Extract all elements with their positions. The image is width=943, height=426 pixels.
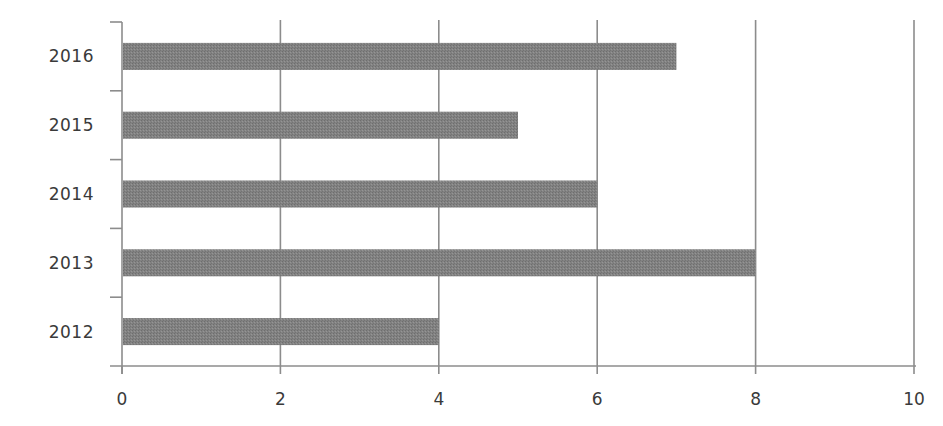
- y-category-label: 2015: [49, 115, 94, 135]
- x-tick-label: 2: [275, 389, 286, 409]
- bar-2015: [123, 112, 518, 139]
- bar-2012: [123, 318, 439, 345]
- x-tick-label: 4: [433, 389, 444, 409]
- y-category-label: 2014: [49, 184, 94, 204]
- x-tick-label: 10: [903, 389, 925, 409]
- y-axis-labels: 20122013201420152016: [49, 46, 94, 341]
- x-axis-labels: 0246810: [117, 389, 925, 409]
- y-category-label: 2013: [49, 253, 94, 273]
- bar-2016: [123, 43, 676, 70]
- bar-2013: [123, 249, 756, 276]
- x-tick-label: 6: [592, 389, 603, 409]
- x-tick-label: 0: [117, 389, 128, 409]
- y-category-label: 2016: [49, 46, 94, 66]
- y-category-label: 2012: [49, 322, 94, 342]
- bar-2014: [123, 181, 597, 208]
- x-tick-label: 8: [750, 389, 761, 409]
- bar-chart: 20122013201420152016 0246810: [0, 0, 943, 426]
